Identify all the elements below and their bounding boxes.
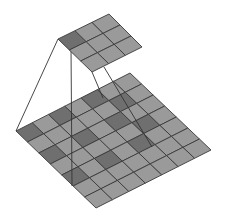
dilated-convolution-diagram: [0, 0, 225, 223]
input-feature-map-grid: [16, 73, 211, 208]
kernel-output-grid: [58, 14, 142, 72]
